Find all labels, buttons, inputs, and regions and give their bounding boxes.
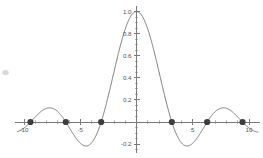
x-tick-label: 5: [191, 126, 195, 133]
y-tick-label: 0.2: [123, 96, 132, 103]
plot-background: [0, 0, 263, 158]
y-tick-label: 0.8: [123, 30, 132, 37]
x-tick-label: 10: [246, 126, 253, 133]
x-tick-label: -10: [20, 126, 30, 133]
zero-crossing-point: [239, 119, 245, 125]
y-tick-label: 0.4: [123, 74, 132, 81]
zero-crossing-point: [98, 119, 104, 125]
y-tick-label: 0.6: [123, 52, 132, 59]
y-tick-label: 1.0: [123, 8, 132, 15]
zero-crossing-point: [204, 119, 210, 125]
zero-crossing-point: [169, 119, 175, 125]
chart-canvas: -10-5510 -0.20.20.40.60.81.0: [0, 0, 263, 158]
x-tick-label: -5: [77, 126, 83, 133]
page-smudge-artifact: [2, 70, 8, 75]
zero-crossing-point: [63, 119, 69, 125]
chart-figure: -10-5510 -0.20.20.40.60.81.0: [0, 0, 263, 158]
y-tick-label: -0.2: [121, 140, 132, 147]
zero-crossing-point: [27, 119, 33, 125]
